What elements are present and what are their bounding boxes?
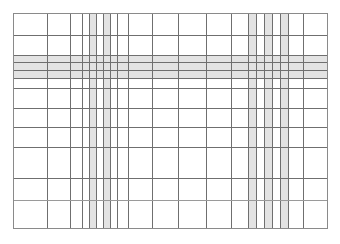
screenshot-canvas bbox=[0, 0, 340, 244]
row-highlight-band-0 bbox=[13, 55, 327, 62]
column-highlight-bands bbox=[89, 13, 288, 228]
column-highlight-band-3 bbox=[264, 13, 272, 228]
column-highlight-band-2 bbox=[248, 13, 256, 228]
column-highlight-band-4 bbox=[280, 13, 288, 228]
row-highlight-band-1 bbox=[13, 62, 327, 70]
row-highlight-bands bbox=[13, 55, 327, 78]
grid-table[interactable] bbox=[0, 0, 340, 244]
column-highlight-band-1 bbox=[103, 13, 111, 228]
row-highlight-band-2 bbox=[13, 70, 327, 78]
column-highlight-band-0 bbox=[89, 13, 96, 228]
